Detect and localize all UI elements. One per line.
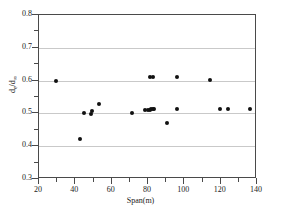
y-axis-tick-label: 0.6 — [2, 76, 32, 84]
y-axis-tick — [32, 80, 38, 81]
y-axis-tick-label: 0.4 — [2, 141, 32, 149]
y-axis-minor-tick — [34, 162, 38, 163]
scatter-chart-figure: de/d∞ Span(m) 0.30.40.50.60.70.820406080… — [0, 0, 281, 212]
x-axis-minor-tick — [165, 178, 166, 182]
x-axis-tick — [111, 178, 112, 184]
y-axis-tick — [32, 47, 38, 48]
y-axis-minor-tick — [34, 96, 38, 97]
x-axis-minor-tick — [238, 178, 239, 182]
gridline — [39, 113, 255, 114]
y-axis-tick-label: 0.7 — [2, 43, 32, 51]
y-axis-tick-label: 0.3 — [2, 174, 32, 182]
x-axis-tick — [147, 178, 148, 184]
data-point — [175, 107, 179, 111]
plot-area — [38, 14, 256, 178]
data-point — [90, 109, 94, 113]
x-axis-tick-label: 80 — [134, 186, 160, 194]
data-point — [130, 111, 134, 115]
x-axis-tick — [256, 178, 257, 184]
y-axis-title: de/d∞ — [8, 65, 17, 105]
gridline — [39, 48, 255, 49]
x-axis-tick-label: 20 — [25, 186, 51, 194]
y-axis-numerator: d — [8, 89, 17, 93]
y-axis-minor-tick — [34, 129, 38, 130]
x-axis-tick — [220, 178, 221, 184]
x-axis-tick-label: 100 — [170, 186, 196, 194]
y-axis-tick — [32, 14, 38, 15]
x-axis-minor-tick — [202, 178, 203, 182]
x-axis-tick-label: 40 — [61, 186, 87, 194]
gridline — [39, 146, 255, 147]
y-axis-minor-tick — [34, 63, 38, 64]
data-point — [218, 107, 222, 111]
y-axis-tick-label: 0.8 — [2, 10, 32, 18]
data-point — [97, 102, 101, 106]
x-axis-title: Span(m) — [0, 196, 281, 205]
data-point — [175, 75, 179, 79]
data-point — [152, 107, 156, 111]
data-point — [54, 79, 58, 83]
data-point — [78, 137, 82, 141]
x-axis-tick-label: 60 — [98, 186, 124, 194]
x-axis-minor-tick — [93, 178, 94, 182]
x-axis-tick-label: 140 — [243, 186, 269, 194]
data-point — [82, 111, 86, 115]
data-point — [165, 121, 169, 125]
y-axis-numerator-subscript: e — [12, 86, 18, 89]
data-point — [151, 75, 155, 79]
x-axis-tick-label: 120 — [207, 186, 233, 194]
y-axis-tick — [32, 112, 38, 113]
x-axis-tick — [183, 178, 184, 184]
y-axis-tick-label: 0.5 — [2, 108, 32, 116]
y-axis-minor-tick — [34, 30, 38, 31]
data-point — [248, 107, 252, 111]
x-axis-minor-tick — [56, 178, 57, 182]
x-axis-tick — [74, 178, 75, 184]
x-axis-tick — [38, 178, 39, 184]
y-axis-tick — [32, 145, 38, 146]
x-axis-minor-tick — [129, 178, 130, 182]
data-point — [226, 107, 230, 111]
gridline — [39, 81, 255, 82]
